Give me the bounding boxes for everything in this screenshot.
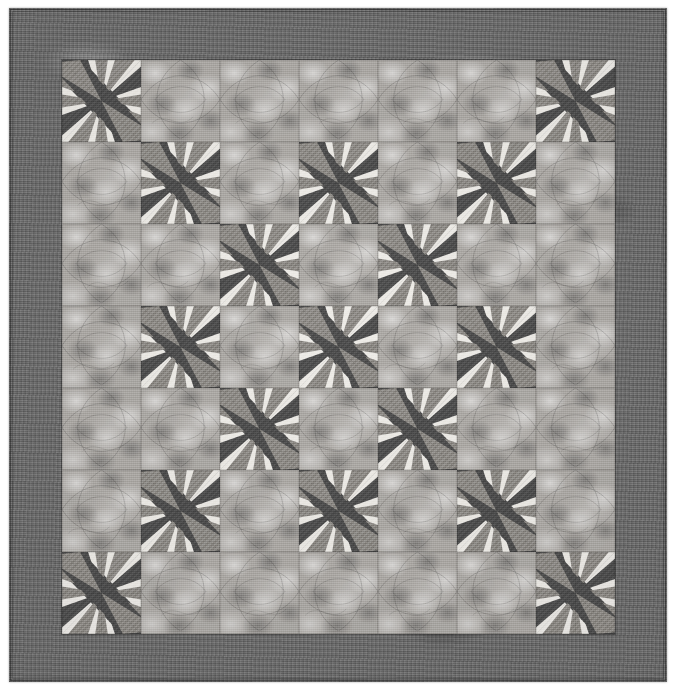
quilt-block-print [536,224,615,306]
quilt-block-print [141,60,220,142]
star-block-piecing [457,470,536,552]
quilting-stitch [62,470,141,549]
quilt-block-print [62,388,141,470]
block-grid [62,60,615,634]
quilt-block-print [299,388,378,470]
quilt-interior [62,60,615,634]
quilting-stitch [378,142,457,221]
quilt-block-print [378,142,457,224]
quilting-stitch [457,552,536,631]
quilt-block-print [62,306,141,388]
quilt-block-print [536,306,615,388]
quilt-block-star [378,388,457,470]
quilting-stitch [62,142,141,221]
quilt-block-star [299,306,378,388]
quilting-stitch [457,60,536,139]
quilt-block-print [299,224,378,306]
quilt-block-print [141,388,220,470]
quilt-block-print [299,552,378,634]
quilting-stitch [536,470,615,549]
quilting-stitch [536,306,615,385]
star-block-piecing [141,306,220,388]
quilt-block-print [220,306,299,388]
quilt-block-print [62,142,141,224]
star-block [141,142,220,224]
quilting-stitch [299,224,378,303]
quilt-block-print [536,388,615,470]
quilting-stitch [220,470,299,549]
star-block [62,60,141,142]
star-block [457,142,536,224]
quilting-stitch [378,552,457,631]
quilting-stitch [62,306,141,385]
quilt-block-print [220,142,299,224]
quilt-block-print [378,60,457,142]
star-block-piecing [220,388,299,470]
star-block [457,306,536,388]
quilt-block-print [220,60,299,142]
star-block-piecing [220,224,299,306]
star-block [220,224,299,306]
quilt-block-star [536,552,615,634]
star-block-piecing [378,388,457,470]
star-block-piecing [299,470,378,552]
quilt-block-star [457,470,536,552]
quilt-block-star [299,470,378,552]
quilting-stitch [536,142,615,221]
quilting-stitch [378,470,457,549]
quilt-block-star [536,60,615,142]
star-block [457,470,536,552]
quilting-stitch [141,552,220,631]
quilt-block-print [62,470,141,552]
quilt-block-print [378,306,457,388]
quilt-block-star [378,224,457,306]
quilt-block-star [141,470,220,552]
quilt-block-print [378,470,457,552]
quilt-block-print [536,470,615,552]
quilt-block-print [220,470,299,552]
quilting-stitch [220,552,299,631]
star-block [299,306,378,388]
quilting-stitch [457,388,536,467]
quilting-stitch [220,142,299,221]
star-block [220,388,299,470]
quilting-stitch [378,306,457,385]
quilt-block-print [536,142,615,224]
quilt-block-star [299,142,378,224]
quilt-block-star [220,388,299,470]
quilt-block-print [378,552,457,634]
star-block-piecing [536,552,615,634]
quilting-stitch [220,306,299,385]
star-block-piecing [457,306,536,388]
quilting-stitch [141,60,220,139]
star-block-piecing [536,60,615,142]
star-block-piecing [141,142,220,224]
quilt-block-star [62,552,141,634]
star-block-piecing [299,142,378,224]
quilt-block-print [457,224,536,306]
star-block-piecing [378,224,457,306]
star-block [536,552,615,634]
quilt [9,8,667,682]
quilting-stitch [536,224,615,303]
quilt-block-star [457,306,536,388]
quilting-stitch [536,388,615,467]
star-block [141,306,220,388]
quilt-block-star [141,142,220,224]
quilting-stitch [457,224,536,303]
quilt-block-print [141,552,220,634]
quilt-block-print [141,224,220,306]
star-block [62,552,141,634]
quilt-block-star [141,306,220,388]
quilt-block-star [457,142,536,224]
quilt-block-star [62,60,141,142]
star-block-piecing [299,306,378,388]
star-block [378,224,457,306]
quilting-stitch [62,224,141,303]
star-block [141,470,220,552]
quilt-block-print [62,224,141,306]
quilt-block-print [299,60,378,142]
quilt-block-print [457,388,536,470]
quilting-stitch [62,388,141,467]
star-block [378,388,457,470]
